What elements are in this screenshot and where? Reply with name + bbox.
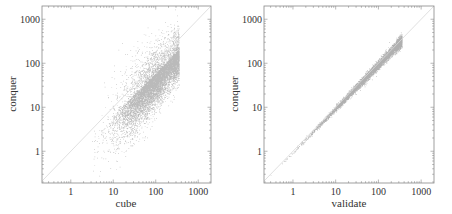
left-ytick-label: 1000 (20, 14, 40, 25)
left-x-axis-label: cube (116, 197, 137, 209)
scatter-figure: 1 10 100 1000 1 10 100 1000 cube conquer… (0, 0, 452, 214)
left-xtick-label: 10 (108, 186, 118, 197)
left-xtick-label: 1 (68, 186, 73, 197)
left-panel: 1 10 100 1000 1 10 100 1000 cube conquer (6, 6, 211, 209)
right-ytick-label: 1000 (242, 14, 262, 25)
left-ytick-label: 10 (30, 102, 40, 113)
right-xtick-label: 1000 (411, 186, 431, 197)
right-panel: 1 10 100 1000 1 10 100 1000 validate con… (228, 6, 434, 209)
right-diagonal-line (264, 6, 434, 181)
left-ytick-label: 100 (25, 58, 40, 69)
right-scatter-points (271, 33, 403, 177)
right-y-axis-label: conquer (228, 76, 240, 112)
left-xtick-label: 1000 (188, 186, 208, 197)
right-ytick-label: 100 (247, 58, 262, 69)
right-ytick-label: 1 (257, 146, 262, 157)
left-xtick-label: 100 (148, 186, 163, 197)
scatter-points (92, 10, 180, 177)
right-xtick-label: 1 (290, 186, 295, 197)
left-scatter-points (92, 10, 180, 177)
left-ytick-label: 1 (35, 146, 40, 157)
right-x-axis-label: validate (332, 197, 367, 209)
right-xtick-label: 10 (331, 186, 341, 197)
right-xtick-label: 100 (371, 186, 386, 197)
right-ytick-label: 10 (252, 102, 262, 113)
figure: 1 10 100 1000 1 10 100 1000 cube conquer… (0, 0, 452, 214)
scatter-points (271, 33, 403, 177)
left-y-axis-label: conquer (6, 76, 18, 112)
left-diagonal-line (42, 6, 211, 181)
